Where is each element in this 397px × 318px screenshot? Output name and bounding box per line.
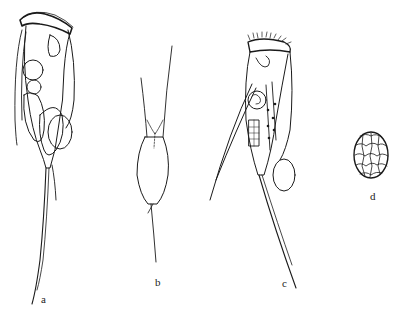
panel-label-a: a — [41, 294, 46, 305]
panel-d-drawing — [354, 132, 388, 178]
figure-drawing — [0, 0, 397, 318]
panel-b-drawing — [137, 46, 172, 262]
figure: a b c d — [0, 0, 397, 318]
panel-label-c: c — [282, 278, 287, 289]
panel-label-b: b — [155, 277, 161, 288]
panel-label-d: d — [370, 191, 376, 202]
panel-c-drawing — [210, 32, 296, 288]
panel-a-drawing — [15, 12, 75, 304]
